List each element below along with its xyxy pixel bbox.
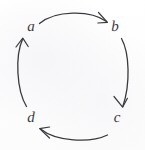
edge-c-to-d-curve	[41, 129, 108, 140]
edge-b-to-c-curve	[122, 39, 129, 107]
node-label-c: c	[114, 111, 121, 126]
edge-b-to-c	[114, 39, 128, 108]
edge-d-to-a-arrowhead	[16, 38, 28, 47]
edge-d-to-a	[16, 38, 28, 106]
node-label-a: a	[27, 20, 35, 35]
edge-a-to-b	[40, 13, 108, 24]
cycle-diagram-figure: a b c d	[0, 0, 145, 150]
node-label-d: d	[27, 111, 35, 126]
edge-a-to-b-curve	[40, 13, 107, 23]
edge-c-to-d	[40, 127, 108, 140]
node-label-b: b	[111, 20, 119, 35]
edge-d-to-a-curve	[18, 40, 27, 107]
diagram-strokes	[0, 0, 145, 150]
